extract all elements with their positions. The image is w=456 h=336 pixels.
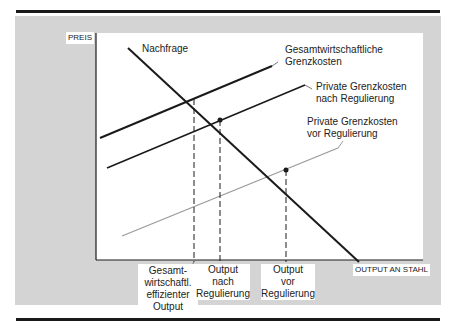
private-mc-after-line <box>107 85 305 168</box>
y-axis-label: PREIS <box>66 32 94 44</box>
x-mark-after: Output nach Regulierung <box>196 264 250 300</box>
social-mc-label: Gesamtwirtschaftliche Grenzkosten <box>285 44 383 68</box>
x-axis-label: OUTPUT AN STAHL <box>353 264 430 276</box>
bottom-rule <box>16 318 440 321</box>
private-before-label: Private Grenzkosten vor Regulierung <box>307 116 398 140</box>
private-after-label: Private Grenzkosten nach Regulierung <box>316 81 407 105</box>
demand-label: Nachfrage <box>142 43 188 55</box>
x-mark-before: Output vor Regulierung <box>261 264 315 300</box>
x-mark-efficient: Gesamt- wirtschaftl. effizienter Output <box>138 264 198 314</box>
private-mc-before-line <box>122 148 338 236</box>
